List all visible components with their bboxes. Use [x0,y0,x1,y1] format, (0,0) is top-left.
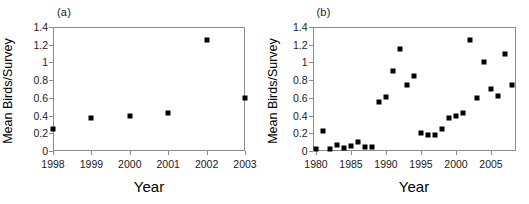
panel-a-x-tick-mark [53,151,54,155]
panel-a-data-point [127,113,132,118]
panel-b-x-tick-label: 2000 [444,158,467,170]
panel-a-y-tick-label: 0.4 [21,110,48,122]
panel-a-data-point [243,95,248,100]
panel-a-x-tick-label: 1998 [41,158,64,170]
panel-a-x-tick-mark [207,151,208,155]
panel-a-y-tick-mark [49,98,53,99]
panel-a-y-tick-label: 0 [21,145,48,157]
panel-b-data-point [489,87,494,92]
panel-b-y-tick-mark [309,151,313,152]
panel-b-data-point [377,100,382,105]
panel-b-y-tick-mark [309,133,313,134]
panel-a-y-tick-label: 1 [21,56,48,68]
panel-b-y-tick-label: 0.4 [281,110,308,122]
panel-a-y-tick-label: 0.8 [21,74,48,86]
panel-b-y-tick-label: 0.8 [281,74,308,86]
panel-b-data-point [363,144,368,149]
panel-b-x-tick-label: 1985 [339,158,362,170]
panel-b-data-point [314,147,319,152]
panel-b-x-axis-title: Year [313,178,516,195]
panel-a-letter: (a) [57,6,71,18]
panel-b-x-tick-mark [491,151,492,155]
panel-a-plot-area [53,27,245,151]
panel-b-data-point [447,116,452,121]
panel-b-y-tick-mark [309,45,313,46]
panel-a-data-point [89,116,94,121]
panel-a-x-tick-mark [168,151,169,155]
panel-b-y-tick-label: 0 [281,145,308,157]
panel-a-data-point [204,38,209,43]
panel-a-y-tick-label: 1.2 [21,39,48,51]
panel-b-data-point [412,73,417,78]
panel-a-y-tick-label: 1.4 [21,21,48,33]
panel-b-y-tick-label: 1.2 [281,39,308,51]
panel-b-y-axis-title: Mean Birds/Survey [263,18,283,163]
panel-b-data-point [454,113,459,118]
panel-b-data-point [461,110,466,115]
panel-b-data-point [482,60,487,65]
panel-b-data-point [468,38,473,43]
panel-b-data-point [342,146,347,151]
panel-b-data-point [328,147,333,152]
panel-a-x-tick-mark [245,151,246,155]
panel-b-data-point [405,82,410,87]
panel-b-data-point [356,140,361,145]
panel-a-x-tick-label: 2003 [233,158,256,170]
panel-b-y-tick-mark [309,98,313,99]
panel-b-data-point [475,95,480,100]
panel-b-data-point [433,133,438,138]
panel-a-y-axis-title: Mean Birds/Survey [0,18,18,163]
panel-a-data-point [166,110,171,115]
panel-b-y-tick-mark [309,62,313,63]
panel-b-x-tick-mark [351,151,352,155]
panel-b-data-point [349,143,354,148]
panel-a-x-tick-label: 2002 [195,158,218,170]
figure-two-panel-scatter: (a) Mean Birds/Survey 00.20.40.60.811.21… [0,0,529,204]
panel-b-data-point [503,51,508,56]
panel-b-data-point [370,144,375,149]
panel-b-y-tick-label: 1.4 [281,21,308,33]
panel-b-data-point [384,94,389,99]
panel-b-y-tick-mark [309,116,313,117]
panel-b-letter: (b) [317,6,331,18]
panel-a-data-point [51,126,56,131]
panel-a-y-tick-label: 0.2 [21,127,48,139]
panel-b-data-point [496,94,501,99]
panel-a-x-tick-label: 2000 [118,158,141,170]
panel-b-x-tick-label: 1990 [374,158,397,170]
panel-a-y-tick-mark [49,133,53,134]
panel-b-data-point [510,82,515,87]
panel-a-x-tick-label: 1999 [80,158,103,170]
panel-a-x-tick-mark [130,151,131,155]
panel-b-x-tick-mark [421,151,422,155]
panel-a-y-tick-mark [49,45,53,46]
panel-b-data-point [440,126,445,131]
panel-b-x-tick-label: 1995 [409,158,432,170]
panel-a-x-tick-mark [91,151,92,155]
panel-a: (a) Mean Birds/Survey 00.20.40.60.811.21… [0,0,265,204]
panel-a-x-axis-title: Year [53,178,245,195]
panel-a-y-tick-label: 0.6 [21,92,48,104]
panel-a-y-tick-mark [49,62,53,63]
panel-a-x-tick-label: 2001 [157,158,180,170]
panel-b-data-point [391,69,396,74]
panel-b-x-tick-label: 1980 [304,158,327,170]
panel-b-data-point [321,128,326,133]
panel-b-y-tick-label: 0.2 [281,127,308,139]
panel-b-data-point [335,142,340,147]
panel-b-x-tick-mark [456,151,457,155]
panel-b-y-tick-label: 1 [281,56,308,68]
panel-b: (b) Mean Birds/Survey 00.20.40.60.811.21… [265,0,529,204]
panel-b-y-tick-mark [309,80,313,81]
panel-a-y-tick-mark [49,80,53,81]
panel-b-plot-area [313,27,516,151]
panel-b-y-tick-mark [309,27,313,28]
panel-b-data-point [426,133,431,138]
panel-a-y-tick-mark [49,116,53,117]
panel-b-data-point [419,131,424,136]
panel-b-x-tick-label: 2005 [479,158,502,170]
panel-b-data-point [398,47,403,52]
panel-b-x-tick-mark [386,151,387,155]
panel-b-y-tick-label: 0.6 [281,92,308,104]
panel-a-y-tick-mark [49,27,53,28]
